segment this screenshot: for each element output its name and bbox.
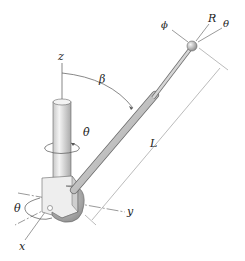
y-axis-label: y (127, 206, 133, 217)
clevis-block (42, 176, 78, 218)
boom-sleeve (74, 95, 155, 190)
length-label: L (150, 138, 157, 149)
phi-label: ϕ (161, 20, 168, 30)
boom-rod (153, 48, 191, 98)
theta-base-label: θ (14, 203, 21, 214)
theta-tip-label: θ (223, 19, 229, 29)
z-axis-label: z (58, 51, 64, 62)
R-label: R (208, 13, 216, 24)
beta-arc (62, 73, 133, 110)
tip-coordinate-lines (172, 24, 222, 42)
x-axis-label: x (19, 241, 25, 252)
end-ball (187, 41, 197, 51)
rotating-column (53, 99, 71, 180)
theta-dot-label: θ̇ (83, 127, 90, 138)
arm-diagram (0, 0, 245, 261)
beta-label: β (99, 74, 105, 85)
